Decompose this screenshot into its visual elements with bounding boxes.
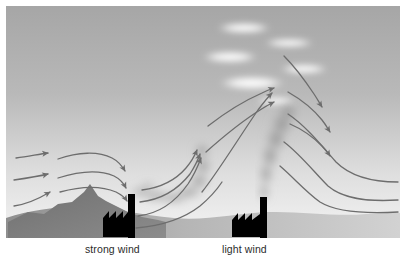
cloud-3 bbox=[202, 51, 258, 63]
label-strong-wind: strong wind bbox=[85, 243, 140, 255]
cloud-4 bbox=[280, 64, 328, 74]
scene-canvas bbox=[6, 6, 400, 238]
cloud-1 bbox=[217, 23, 271, 34]
figure-plume-behaviour: strong wind light wind bbox=[0, 0, 410, 268]
label-light-wind: light wind bbox=[222, 243, 267, 255]
cloud-2 bbox=[264, 39, 314, 48]
factory-right-chimney bbox=[260, 197, 267, 238]
cloud-5 bbox=[219, 76, 285, 90]
factory-left-chimney bbox=[128, 194, 135, 238]
